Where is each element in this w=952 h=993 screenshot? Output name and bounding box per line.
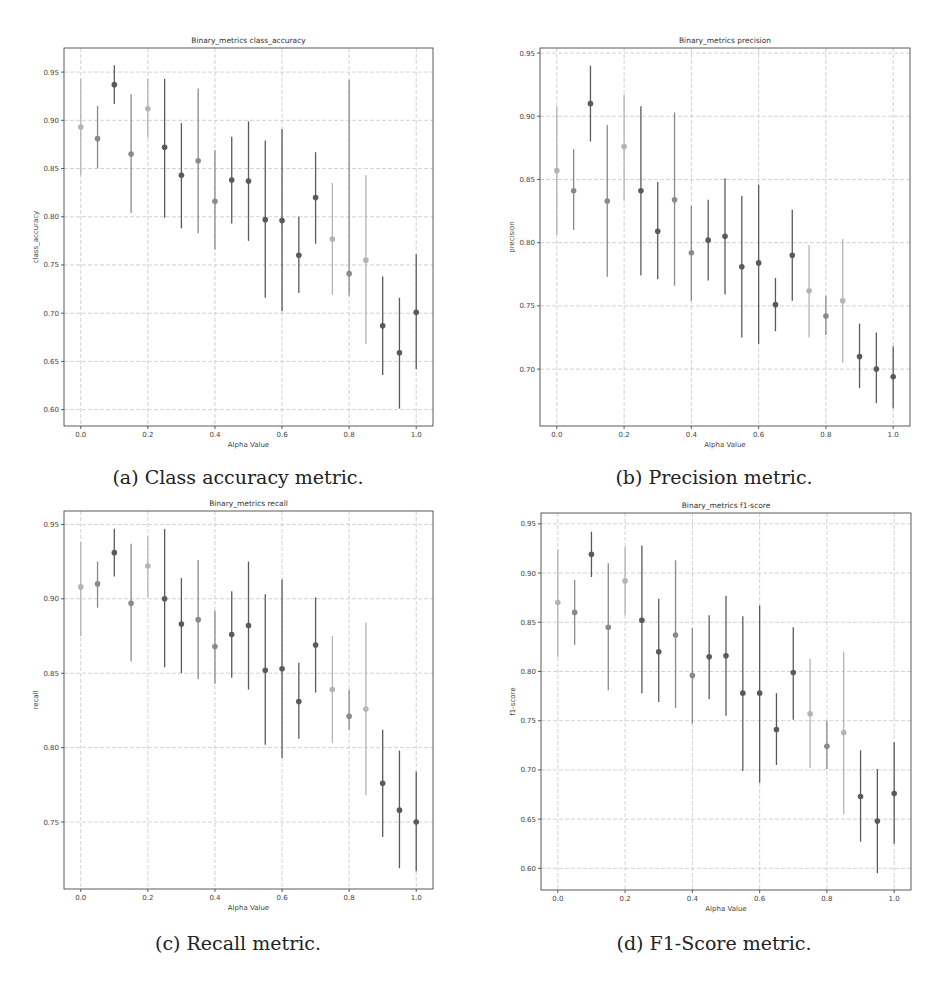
point-marker xyxy=(605,624,611,630)
x-tick-label: 0.4 xyxy=(687,895,699,903)
data-point xyxy=(229,137,235,224)
data-point xyxy=(413,254,419,369)
data-point xyxy=(789,210,795,301)
point-marker xyxy=(128,600,134,606)
caption-class-accuracy: (a) Class accuracy metric. xyxy=(0,466,476,488)
data-point xyxy=(212,150,218,249)
data-point xyxy=(639,545,645,693)
x-tick-label: 0.0 xyxy=(75,431,86,439)
y-tick-label: 0.75 xyxy=(43,819,59,827)
point-marker xyxy=(246,178,252,184)
point-marker xyxy=(380,323,386,329)
point-marker xyxy=(705,237,711,243)
point-marker xyxy=(740,690,746,696)
y-tick-label: 0.85 xyxy=(43,670,59,678)
data-point xyxy=(413,771,419,871)
x-tick-label: 0.0 xyxy=(552,895,563,903)
y-axis-label: precision xyxy=(508,221,516,253)
point-marker xyxy=(757,690,763,696)
data-point xyxy=(330,183,336,295)
data-point xyxy=(722,178,728,294)
data-point xyxy=(162,79,168,218)
point-marker xyxy=(212,199,218,205)
point-marker xyxy=(145,106,151,112)
x-axis-label: Alpha Value xyxy=(705,905,746,913)
data-point xyxy=(112,529,118,577)
point-marker xyxy=(212,644,218,650)
x-tick-label: 0.4 xyxy=(686,431,698,439)
data-point xyxy=(840,239,846,363)
data-point xyxy=(841,652,847,814)
y-tick-label: 0.60 xyxy=(520,865,536,873)
caption-recall: (c) Recall metric. xyxy=(0,932,476,954)
point-marker xyxy=(195,158,201,164)
point-marker xyxy=(179,621,185,627)
chart-panel-recall: 0.00.20.40.60.81.00.750.800.850.900.95Bi… xyxy=(0,490,476,910)
data-point xyxy=(246,121,252,241)
point-marker xyxy=(313,642,319,648)
y-tick-label: 0.65 xyxy=(43,358,59,366)
point-marker xyxy=(722,234,728,240)
y-tick-label: 0.95 xyxy=(519,50,535,58)
point-marker xyxy=(279,666,285,672)
y-tick-label: 0.95 xyxy=(520,520,536,528)
point-marker xyxy=(790,670,796,676)
data-point xyxy=(622,546,628,615)
x-tick-label: 0.6 xyxy=(276,431,288,439)
chart-title: Binary_metrics precision xyxy=(679,36,771,45)
data-point xyxy=(397,751,403,869)
data-point xyxy=(571,149,577,230)
data-point xyxy=(128,544,134,662)
x-tick-label: 0.8 xyxy=(820,431,831,439)
data-point xyxy=(162,529,168,667)
data-point xyxy=(95,106,101,169)
y-tick-label: 0.80 xyxy=(520,668,536,676)
point-marker xyxy=(806,288,812,294)
x-axis-label: Alpha Value xyxy=(704,441,745,449)
y-tick-label: 0.75 xyxy=(43,261,59,269)
data-point xyxy=(673,560,679,708)
data-series xyxy=(78,529,419,871)
y-axis-label: class_accuracy xyxy=(32,211,40,263)
point-marker xyxy=(638,188,644,194)
data-point xyxy=(380,277,386,375)
data-point xyxy=(397,298,403,409)
point-marker xyxy=(841,730,847,736)
data-point xyxy=(262,594,268,744)
data-point xyxy=(346,690,352,730)
y-tick-label: 0.85 xyxy=(43,165,59,173)
point-marker xyxy=(179,172,185,178)
data-point xyxy=(555,549,561,656)
point-marker xyxy=(773,302,779,308)
x-tick-label: 0.2 xyxy=(142,431,153,439)
point-marker xyxy=(622,578,628,584)
data-point xyxy=(262,141,268,298)
data-point xyxy=(806,245,812,337)
point-marker xyxy=(128,151,134,157)
y-tick-label: 0.80 xyxy=(519,239,535,247)
data-point xyxy=(589,532,595,577)
data-point xyxy=(363,623,369,796)
chart-panel-precision: 0.00.20.40.60.81.00.700.750.800.850.900.… xyxy=(476,0,952,460)
point-marker xyxy=(162,596,168,602)
data-point xyxy=(78,542,84,636)
data-point xyxy=(689,206,695,301)
data-point xyxy=(740,616,746,771)
y-tick-label: 0.80 xyxy=(43,213,59,221)
axis-ticks: 0.00.20.40.60.81.00.700.750.800.850.900.… xyxy=(519,50,898,439)
point-marker xyxy=(554,168,560,174)
point-marker xyxy=(706,654,712,660)
point-marker xyxy=(262,217,268,223)
chart-precision: 0.00.20.40.60.81.00.700.750.800.850.900.… xyxy=(476,0,952,460)
point-marker xyxy=(555,600,561,606)
chart-panel-f1-score: 0.00.20.40.60.81.00.600.650.700.750.800.… xyxy=(476,490,952,910)
data-series xyxy=(78,65,419,408)
point-marker xyxy=(589,552,595,558)
data-point xyxy=(572,580,578,645)
data-point xyxy=(229,591,235,677)
point-marker xyxy=(195,617,201,623)
axis-ticks: 0.00.20.40.60.81.00.600.650.700.750.800.… xyxy=(520,520,899,903)
point-marker xyxy=(789,253,795,259)
y-axis-label: f1-score xyxy=(509,687,517,715)
data-point xyxy=(554,106,560,235)
